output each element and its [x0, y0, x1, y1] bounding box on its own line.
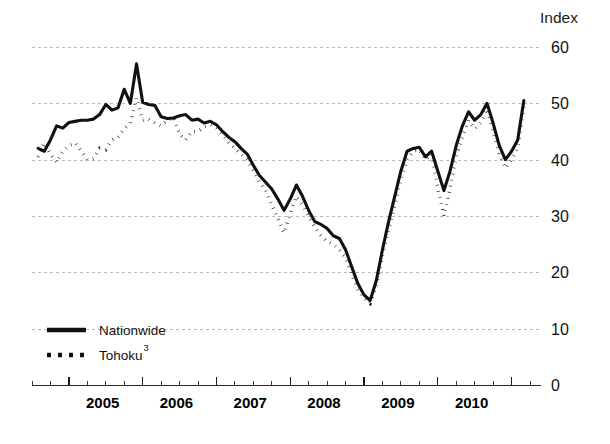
chart-figure: 6050403020100 Index 20052006200720082009…	[0, 0, 610, 444]
x-tick-label-2009: 2009	[381, 394, 414, 411]
x-tick-label-2005: 2005	[86, 394, 119, 411]
y-tick-label-0: 0	[551, 377, 560, 394]
legend-label-nationwide: Nationwide	[99, 323, 166, 338]
y-tick-label-30: 30	[551, 208, 569, 225]
y-tick-label-60: 60	[551, 39, 569, 56]
economy-watchers-line-chart: 6050403020100 Index 20052006200720082009…	[0, 0, 610, 444]
x-tick-label-2010: 2010	[455, 394, 488, 411]
y-tick-label-10: 10	[551, 321, 569, 338]
x-tick-label-2007: 2007	[234, 394, 267, 411]
x-tick-label-2008: 2008	[307, 394, 340, 411]
legend-superscript-tohoku: 3	[144, 342, 149, 353]
y-tick-label-40: 40	[551, 152, 569, 169]
y-tick-label-50: 50	[551, 95, 569, 112]
legend-label-tohoku: Tohoku	[99, 348, 143, 363]
x-tick-label-2006: 2006	[160, 394, 193, 411]
y-tick-label-20: 20	[551, 264, 569, 281]
chart-background	[0, 0, 610, 444]
y-axis-title: Index	[540, 9, 578, 26]
